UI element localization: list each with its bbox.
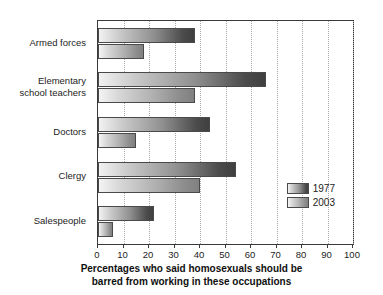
plot-area: 1977 2003 bbox=[97, 20, 354, 245]
x-tick-label: 80 bbox=[296, 249, 307, 261]
bar-1977-doctors bbox=[98, 117, 210, 132]
category-label: Armed forces bbox=[0, 37, 86, 49]
axis-title-line-2: barred from working in these occupations bbox=[0, 276, 383, 289]
tick-mark bbox=[276, 244, 277, 248]
legend-label-2003: 2003 bbox=[313, 197, 335, 208]
legend-item-1977: 1977 bbox=[287, 183, 335, 194]
x-tick-label: 30 bbox=[168, 249, 179, 261]
x-tick-label: 100 bbox=[344, 249, 360, 261]
tick-mark bbox=[352, 244, 353, 248]
x-tick-label: 40 bbox=[194, 249, 205, 261]
tick-mark bbox=[327, 244, 328, 248]
bar-2003-doctors bbox=[98, 133, 136, 148]
x-tick-label: 0 bbox=[94, 249, 99, 261]
x-tick-label: 90 bbox=[321, 249, 332, 261]
gridline bbox=[353, 21, 355, 244]
tick-mark bbox=[199, 244, 200, 248]
category-label: Clergy bbox=[0, 170, 86, 182]
tick-mark bbox=[148, 244, 149, 248]
x-tick-label: 20 bbox=[143, 249, 154, 261]
legend-item-2003: 2003 bbox=[287, 197, 335, 208]
bar-chart: Armed forcesElementary school teachersDo… bbox=[0, 0, 383, 295]
x-tick-label: 10 bbox=[117, 249, 128, 261]
legend-swatch-1977 bbox=[287, 183, 309, 194]
x-axis-tick-labels: 0102030405060708090100 bbox=[97, 249, 352, 262]
axis-title-line-1: Percentages who said homosexuals should … bbox=[0, 263, 383, 276]
legend-label-1977: 1977 bbox=[313, 183, 335, 194]
x-tick-label: 50 bbox=[219, 249, 230, 261]
bar-2003-armed-forces bbox=[98, 44, 144, 59]
legend-swatch-2003 bbox=[287, 197, 309, 208]
bar-group bbox=[98, 28, 353, 59]
category-label: Salespeople bbox=[0, 215, 86, 227]
bar-2003-clergy bbox=[98, 178, 200, 193]
tick-mark bbox=[225, 244, 226, 248]
tick-mark bbox=[250, 244, 251, 248]
bars-layer bbox=[98, 21, 353, 244]
bar-1977-armed-forces bbox=[98, 28, 195, 43]
axis-title: Percentages who said homosexuals should … bbox=[0, 263, 383, 288]
bar-2003-elementary-school-teachers bbox=[98, 88, 195, 103]
x-tick-label: 60 bbox=[245, 249, 256, 261]
tick-mark bbox=[174, 244, 175, 248]
bar-1977-elementary-school-teachers bbox=[98, 72, 266, 87]
chart-legend: 1977 2003 bbox=[287, 183, 335, 208]
category-label: Doctors bbox=[0, 126, 86, 138]
x-tick-label: 70 bbox=[270, 249, 281, 261]
category-axis-labels: Armed forcesElementary school teachersDo… bbox=[0, 20, 92, 243]
bar-1977-clergy bbox=[98, 162, 236, 177]
tick-mark bbox=[123, 244, 124, 248]
bar-2003-salespeople bbox=[98, 222, 113, 237]
category-label: Elementary school teachers bbox=[0, 75, 86, 98]
bar-group bbox=[98, 117, 353, 148]
bar-1977-salespeople bbox=[98, 206, 154, 221]
tick-mark bbox=[301, 244, 302, 248]
bar-group bbox=[98, 72, 353, 103]
bar-group bbox=[98, 206, 353, 237]
tick-mark bbox=[97, 244, 98, 248]
